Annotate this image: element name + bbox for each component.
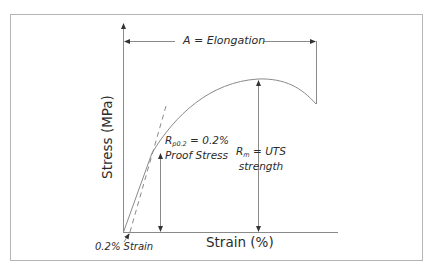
elongation-label: A = Elongation — [183, 35, 265, 46]
y-axis-label: Stress (MPa) — [99, 92, 115, 182]
x-axis-label: Strain (%) — [206, 234, 274, 250]
uts-label: Rm = UTS strength — [236, 146, 286, 172]
strain-offset-label: 0.2% Strain — [95, 241, 153, 252]
proof-stress-label: Rp0.2 = 0.2% Proof Stress — [165, 135, 229, 161]
